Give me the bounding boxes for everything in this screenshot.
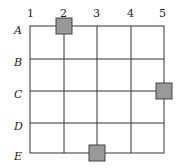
row-labels: A B C D E <box>13 24 23 163</box>
row-label-c: C <box>14 88 23 101</box>
column-label-4: 4 <box>127 7 134 20</box>
column-labels: 1 2 3 4 5 <box>27 7 166 20</box>
squares <box>56 18 172 161</box>
grid-lines <box>30 26 164 153</box>
square-a2 <box>56 18 72 34</box>
square-c5 <box>156 83 172 99</box>
square-e3 <box>89 145 105 161</box>
row-label-a: A <box>13 24 22 37</box>
column-label-3: 3 <box>93 7 100 20</box>
column-label-1: 1 <box>27 7 34 20</box>
row-label-d: D <box>13 120 23 133</box>
grid-diagram: 1 2 3 4 5 A B C D E <box>0 0 180 168</box>
row-label-e: E <box>13 150 22 163</box>
row-label-b: B <box>13 56 22 69</box>
column-label-5: 5 <box>159 7 166 20</box>
